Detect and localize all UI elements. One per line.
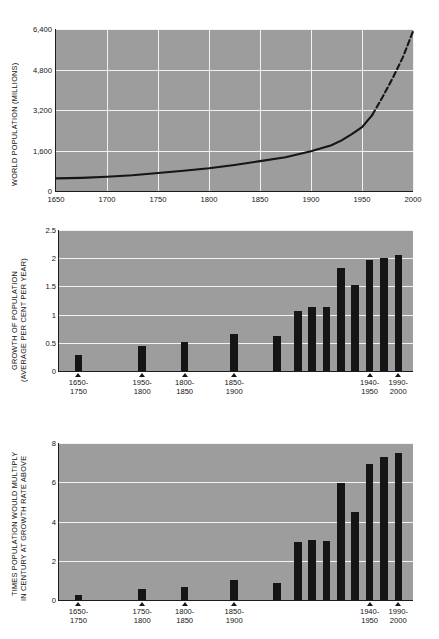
x-tick-label: 1900 [303, 195, 320, 204]
bar [308, 540, 316, 600]
category-label-line2: 2000 [389, 616, 408, 625]
category-label: 1990-2000 [389, 607, 408, 625]
category-label: 1650-1750 [69, 607, 88, 625]
category-label-line2: 1750 [69, 387, 88, 396]
category-label: 1950-1800 [132, 378, 151, 396]
category-label: 1750-1800 [132, 607, 151, 625]
bar [366, 260, 374, 371]
chart2-y-axis [58, 230, 59, 372]
category-label-line2: 1800 [132, 616, 151, 625]
category-label-line2: 1750 [69, 616, 88, 625]
bar [366, 464, 374, 600]
bar [138, 589, 146, 600]
bar [294, 542, 302, 600]
grid-line [59, 315, 413, 316]
category-label-line2: 1850 [175, 387, 194, 396]
category-label-line2: 1900 [225, 387, 244, 396]
bar [230, 580, 238, 600]
chart-times-population-multiply: TIMES POPULATION WOULD MULTIPLY IN CENTU… [0, 410, 439, 639]
y-tick-label: 2 [52, 556, 56, 565]
y-tick-label: 2.5 [45, 226, 56, 235]
tick-marker [139, 602, 145, 606]
chart3-plot-area [59, 443, 413, 600]
category-label: 1940-1950 [360, 607, 379, 625]
line-series-projected [372, 32, 413, 116]
y-tick-label: 8 [52, 439, 56, 448]
y-tick-label: 1.5 [45, 282, 56, 291]
category-label-line2: 1850 [175, 616, 194, 625]
bar [380, 258, 388, 371]
y-tick-label: 2 [52, 254, 56, 263]
category-label-line1: 1990- [389, 607, 408, 616]
chart2-y-axis-label-line1: GROWTH OF POPULATION [10, 230, 19, 370]
bar [294, 311, 302, 371]
category-label: 1850-1900 [225, 607, 244, 625]
bar [75, 355, 83, 371]
category-label-line1: 1650- [69, 607, 88, 616]
chart3-y-tick-labels: 02468 [22, 410, 56, 639]
bar [75, 595, 83, 600]
bar [380, 457, 388, 600]
y-tick-label: 0.5 [45, 338, 56, 347]
tick-marker [75, 602, 81, 606]
grid-line [59, 443, 413, 444]
category-label-line2: 1900 [225, 616, 244, 625]
category-label-line2: 1800 [132, 387, 151, 396]
y-tick-label: 0 [52, 367, 56, 376]
bar [323, 541, 331, 600]
x-tick-label: 2000 [405, 195, 422, 204]
y-tick-label: 1 [52, 310, 56, 319]
category-label-line2: 2000 [389, 387, 408, 396]
tick-marker [182, 373, 188, 377]
category-label-line2: 1950 [360, 387, 379, 396]
category-label-line1: 1800- [175, 378, 194, 387]
category-label: 1800-1850 [175, 378, 194, 396]
bar [323, 307, 331, 371]
bar [337, 483, 345, 600]
category-label-line1: 1940- [360, 378, 379, 387]
y-tick-label: 0 [52, 596, 56, 605]
category-label-line1: 1950- [132, 378, 151, 387]
tick-marker [182, 602, 188, 606]
category-label-line1: 1850- [225, 607, 244, 616]
tick-marker [231, 602, 237, 606]
x-tick-label: 1950 [354, 195, 371, 204]
chart3-y-axis-label-line1: TIMES POPULATION WOULD MULTIPLY [10, 436, 19, 596]
bar [308, 307, 316, 371]
category-label-line2: 1950 [360, 616, 379, 625]
chart1-line-series [0, 0, 439, 212]
chart-world-population: WORLD POPULATION (MILLIONS) 01,6003,2004… [0, 0, 439, 212]
figure-page: WORLD POPULATION (MILLIONS) 01,6003,2004… [0, 0, 439, 639]
grid-line [59, 561, 413, 562]
line-series-observed [56, 115, 372, 178]
category-label-line1: 1800- [175, 607, 194, 616]
category-label-line1: 1850- [225, 378, 244, 387]
x-tick-label: 1650 [48, 195, 65, 204]
tick-marker [75, 373, 81, 377]
x-tick-label: 1750 [150, 195, 167, 204]
category-label: 1650-1750 [69, 378, 88, 396]
category-label: 1850-1900 [225, 378, 244, 396]
bar [138, 346, 146, 371]
category-label-line1: 1650- [69, 378, 88, 387]
grid-line [59, 230, 413, 231]
tick-marker [231, 373, 237, 377]
chart3-y-axis [58, 443, 59, 601]
category-label-line1: 1990- [389, 378, 408, 387]
bar [230, 334, 238, 371]
bar [351, 285, 359, 371]
category-label-line1: 1750- [132, 607, 151, 616]
category-label-line1: 1940- [360, 607, 379, 616]
tick-marker [395, 373, 401, 377]
chart2-y-tick-labels: 00.511.522.5 [22, 212, 56, 410]
grid-line [59, 482, 413, 483]
bar [351, 512, 359, 600]
bar [273, 583, 281, 600]
bar [337, 268, 345, 371]
category-label: 1800-1850 [175, 607, 194, 625]
tick-marker [395, 602, 401, 606]
y-tick-label: 6 [52, 478, 56, 487]
grid-line [59, 522, 413, 523]
x-tick-label: 1700 [99, 195, 116, 204]
y-tick-label: 4 [52, 517, 56, 526]
